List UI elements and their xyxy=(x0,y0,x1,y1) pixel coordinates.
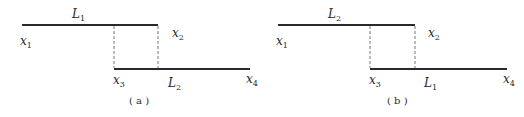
caption-b: ( b ) xyxy=(387,95,408,106)
point-x2-label: x2 xyxy=(428,26,440,42)
top-segment-label: L1 xyxy=(71,7,85,23)
point-x3-label: x3 xyxy=(113,73,125,89)
caption-a: ( a ) xyxy=(129,95,149,106)
diagram: L1 x1 x2 x3 L2 x4 ( a ) L2 x1 x2 x3 L1 x… xyxy=(0,0,524,117)
point-x3-label: x3 xyxy=(369,73,381,89)
point-x2-label: x2 xyxy=(172,26,184,42)
point-x4-label: x4 xyxy=(246,72,258,88)
top-segment-label: L2 xyxy=(327,7,341,23)
point-x4-label: x4 xyxy=(503,72,515,88)
point-x1-label: x1 xyxy=(20,34,32,50)
panel-b: L2 x1 x2 x3 L1 x4 ( b ) xyxy=(276,7,515,106)
panel-a: L1 x1 x2 x3 L2 x4 ( a ) xyxy=(20,7,258,106)
bottom-segment-label: L2 xyxy=(167,76,181,92)
point-x1-label: x1 xyxy=(276,34,288,50)
bottom-segment-label: L1 xyxy=(423,76,437,92)
